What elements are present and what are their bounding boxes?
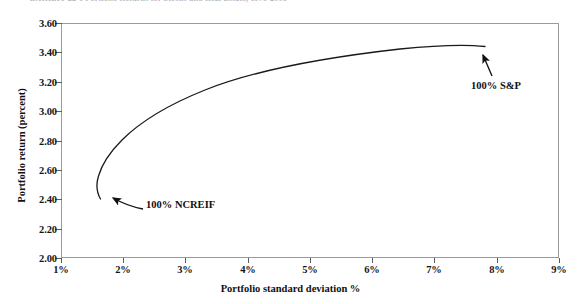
x-tick-5pct [310,258,311,263]
x-tick-8pct [497,258,498,263]
x-tick-3pct [185,258,186,263]
x-axis-label-4pct: 4% [228,264,268,275]
y-axis-labels: 3.60 3.40 3.20 3.00 2.80 2.60 2.40 2.20 … [0,0,57,304]
x-axis-label-5pct: 5% [290,264,330,275]
x-axis-title: Portfolio standard deviation % [0,283,581,294]
chart-screenshot: EXHIBIT 22-6 Portfolio Returns for Stock… [0,0,581,304]
y-axis-label-2.60: 2.60 [5,165,57,176]
x-axis-label-1pct: 1% [41,264,81,275]
y-axis-label-3.40: 3.40 [5,47,57,58]
y-axis-label-2.00: 2.00 [5,253,57,264]
x-tick-9pct [559,258,560,263]
plot-frame [61,23,559,258]
x-tick-6pct [372,258,373,263]
portfolio-frontier-chart: Portfolio return (percent) 3.60 3.40 3.2… [0,0,581,304]
x-axis-label-6pct: 6% [352,264,392,275]
annotation-label-snp: 100% S&P [471,80,521,91]
x-tick-1pct [61,258,62,263]
x-axis-label-7pct: 7% [414,264,454,275]
y-axis-label-2.40: 2.40 [5,194,57,205]
x-tick-2pct [123,258,124,263]
y-axis-label-3.00: 3.00 [5,106,57,117]
x-axis-label-2pct: 2% [103,264,143,275]
y-axis-label-2.20: 2.20 [5,224,57,235]
y-axis-label-3.20: 3.20 [5,77,57,88]
x-axis-label-9pct: 9% [539,264,579,275]
x-axis-label-8pct: 8% [477,264,517,275]
x-axis-label-3pct: 3% [165,264,205,275]
y-axis-label-3.60: 3.60 [5,18,57,29]
annotation-label-ncreif: 100% NCREIF [146,199,215,210]
y-axis-label-2.80: 2.80 [5,136,57,147]
x-tick-4pct [248,258,249,263]
x-tick-7pct [434,258,435,263]
